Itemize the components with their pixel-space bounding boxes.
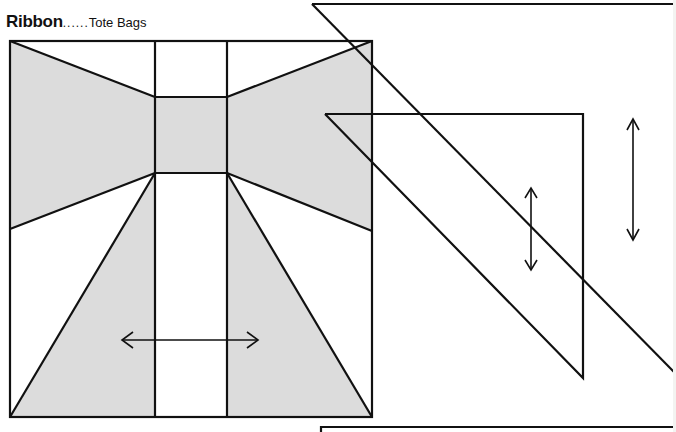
quilt-block-diagram	[0, 0, 676, 432]
vertical-grain-arrow-icon	[627, 119, 639, 240]
knot-piece	[155, 97, 227, 173]
bottom-rectangle-template	[321, 427, 676, 432]
small-triangle-template	[325, 114, 583, 378]
vertical-grain-arrow-icon	[525, 188, 537, 270]
